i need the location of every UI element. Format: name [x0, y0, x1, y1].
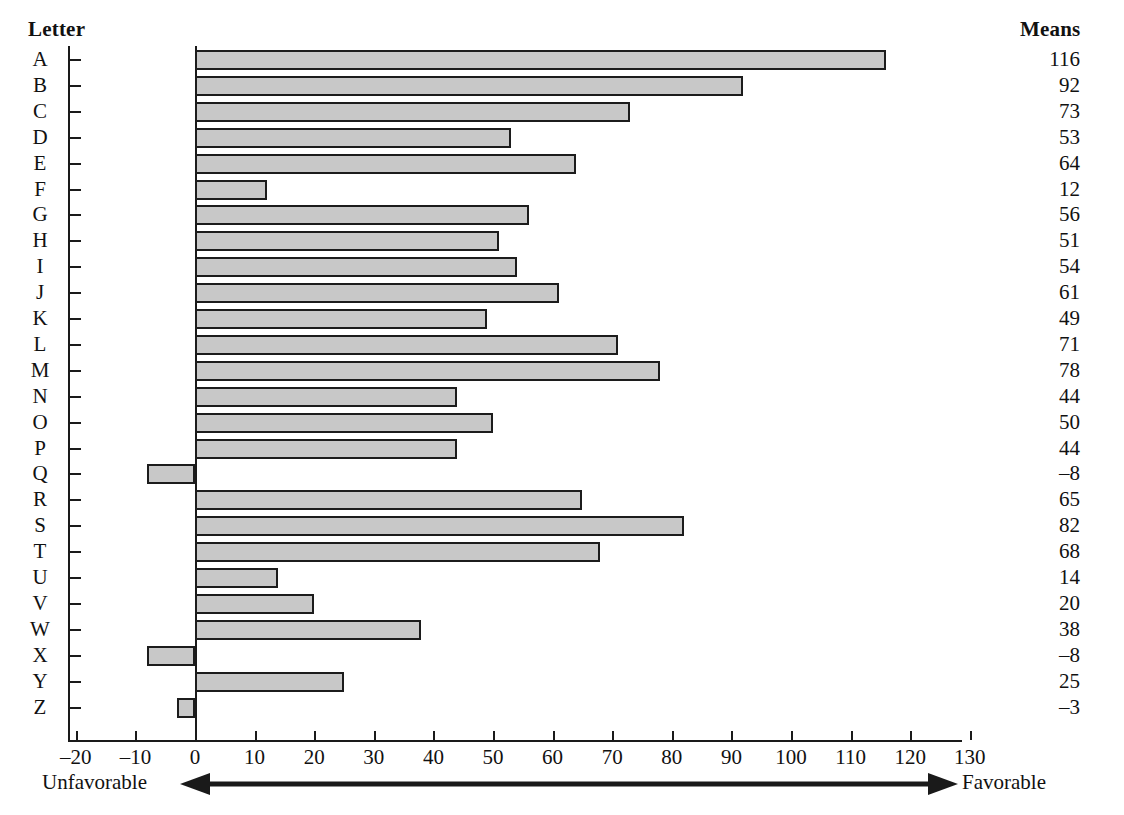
category-label-d: D — [18, 127, 62, 148]
category-label-q: Q — [18, 463, 62, 484]
y-tick-j — [70, 292, 81, 294]
mean-value-n: 44 — [1000, 386, 1080, 407]
bar-o — [195, 413, 493, 433]
mean-value-i: 54 — [1000, 256, 1080, 277]
x-tick-120 — [910, 731, 912, 740]
y-tick-u — [70, 577, 81, 579]
x-tick-label-20: 20 — [284, 746, 344, 768]
mean-value-q: –8 — [1000, 463, 1080, 484]
bar-n — [195, 387, 457, 407]
category-label-o: O — [18, 412, 62, 433]
bar-i — [195, 257, 517, 277]
category-label-t: T — [18, 541, 62, 562]
mean-value-p: 44 — [1000, 438, 1080, 459]
category-label-c: C — [18, 101, 62, 122]
category-label-e: E — [18, 153, 62, 174]
x-tick-label-40: 40 — [403, 746, 463, 768]
x-tick-50 — [493, 731, 495, 740]
y-tick-i — [70, 266, 81, 268]
letter-column-header: Letter — [28, 17, 85, 42]
x-tick-30 — [374, 731, 376, 740]
x-tick-20 — [314, 731, 316, 740]
x-tick-label-30: 30 — [344, 746, 404, 768]
y-tick-p — [70, 448, 81, 450]
category-label-a: A — [18, 49, 62, 70]
bar-c — [195, 102, 630, 122]
bar-f — [195, 180, 267, 200]
y-tick-e — [70, 163, 81, 165]
bar-s — [195, 516, 684, 536]
bar-w — [195, 620, 421, 640]
y-tick-l — [70, 344, 81, 346]
y-tick-g — [70, 214, 81, 216]
bar-y — [195, 672, 344, 692]
x-tick-label-120: 120 — [880, 746, 940, 768]
category-label-x: X — [18, 645, 62, 666]
category-label-n: N — [18, 386, 62, 407]
mean-value-w: 38 — [1000, 619, 1080, 640]
mean-value-z: –3 — [1000, 697, 1080, 718]
x-tick-label-130: 130 — [940, 746, 1000, 768]
category-label-p: P — [18, 438, 62, 459]
y-tick-f — [70, 189, 81, 191]
x-tick-40 — [433, 731, 435, 740]
mean-value-y: 25 — [1000, 671, 1080, 692]
x-tick-70 — [612, 731, 614, 740]
y-tick-o — [70, 422, 81, 424]
x-tick-label-70: 70 — [582, 746, 642, 768]
bar-h — [195, 231, 499, 251]
x-tick-label-110: 110 — [821, 746, 881, 768]
mean-value-f: 12 — [1000, 179, 1080, 200]
bar-q — [147, 464, 195, 484]
mean-value-l: 71 — [1000, 334, 1080, 355]
category-label-b: B — [18, 75, 62, 96]
mean-value-m: 78 — [1000, 360, 1080, 381]
category-label-r: R — [18, 489, 62, 510]
category-label-m: M — [18, 360, 62, 381]
y-tick-t — [70, 551, 81, 553]
favorable-label: Favorable — [962, 771, 1046, 793]
category-label-z: Z — [18, 697, 62, 718]
bar-u — [195, 568, 278, 588]
bar-r — [195, 490, 582, 510]
x-tick-60 — [553, 731, 555, 740]
bar-t — [195, 542, 600, 562]
category-label-v: V — [18, 593, 62, 614]
y-tick-h — [70, 240, 81, 242]
y-tick-v — [70, 603, 81, 605]
mean-value-e: 64 — [1000, 153, 1080, 174]
category-label-w: W — [18, 619, 62, 640]
category-label-u: U — [18, 567, 62, 588]
bar-x — [147, 646, 195, 666]
x-tick-neg20 — [76, 731, 78, 740]
y-tick-b — [70, 85, 81, 87]
y-tick-k — [70, 318, 81, 320]
x-tick-label-50: 50 — [463, 746, 523, 768]
bar-p — [195, 439, 457, 459]
x-tick-label-0: 0 — [165, 746, 225, 768]
bar-v — [195, 594, 314, 614]
category-label-h: H — [18, 230, 62, 251]
category-label-y: Y — [18, 671, 62, 692]
x-tick-90 — [731, 731, 733, 740]
x-tick-label-100: 100 — [761, 746, 821, 768]
x-tick-110 — [851, 731, 853, 740]
mean-value-t: 68 — [1000, 541, 1080, 562]
mean-value-j: 61 — [1000, 282, 1080, 303]
direction-double-arrow — [180, 769, 958, 799]
category-label-f: F — [18, 179, 62, 200]
x-tick-neg10 — [135, 731, 137, 740]
x-tick-label-neg10: –10 — [105, 746, 165, 768]
category-label-s: S — [18, 515, 62, 536]
y-tick-s — [70, 525, 81, 527]
bar-m — [195, 361, 660, 381]
y-tick-n — [70, 396, 81, 398]
bar-j — [195, 283, 559, 303]
mean-value-c: 73 — [1000, 101, 1080, 122]
horizontal-bar-chart: Letter Means ABCDEFGHIJKLMNOPQRSTUVWXYZ … — [0, 0, 1124, 815]
means-column-header: Means — [1020, 17, 1081, 42]
bar-a — [195, 50, 886, 70]
y-tick-x — [70, 655, 81, 657]
bar-b — [195, 76, 743, 96]
y-tick-y — [70, 681, 81, 683]
